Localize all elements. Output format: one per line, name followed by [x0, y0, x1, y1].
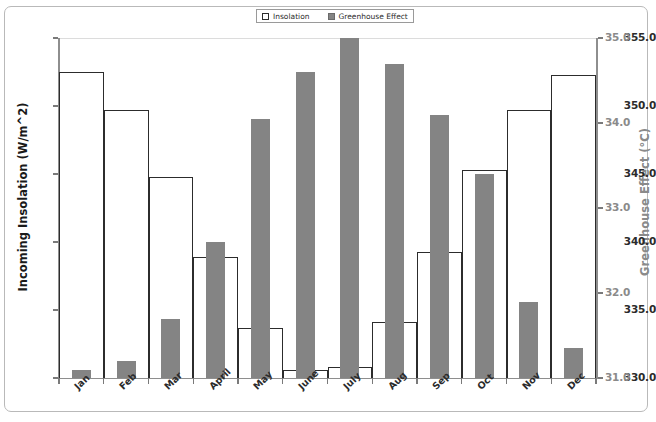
legend-label-greenhouse-effect: Greenhouse Effect [339, 12, 408, 21]
bar-greenhouse-effect[interactable] [519, 302, 538, 379]
x-axis-tick [327, 378, 328, 384]
y-axis-tick-label-right: 31.0 [605, 371, 630, 383]
x-axis-tick [103, 378, 104, 384]
y-axis-tick-label-left: 350.0 [608, 99, 656, 111]
y-axis-tick-right [598, 292, 603, 293]
y-axis-tick-label-left: 345.0 [608, 167, 656, 179]
y-axis-tick-left [53, 377, 58, 378]
bar-insolation[interactable] [59, 72, 104, 378]
y-axis-tick-left [53, 309, 58, 310]
x-axis-tick [237, 378, 238, 384]
x-axis-tick [193, 378, 194, 384]
bar-insolation[interactable] [104, 110, 149, 378]
y-axis-tick-label-right: 34.0 [605, 116, 630, 128]
y-axis-tick-left [53, 105, 58, 106]
filled-square-icon [328, 13, 335, 20]
open-square-icon [262, 13, 269, 20]
x-axis-tick [461, 378, 462, 384]
right-axis-title: Greenhouse Effect (°C) [638, 92, 652, 312]
bar-greenhouse-effect[interactable] [251, 119, 270, 378]
chart-container: Insolation Greenhouse Effect Incoming In… [0, 0, 656, 422]
x-axis-tick [416, 378, 417, 384]
x-axis-tick [506, 378, 507, 384]
left-axis-title: Incoming Insolation (W/m^2) [16, 87, 30, 307]
chart-legend: Insolation Greenhouse Effect [256, 9, 414, 23]
bar-greenhouse-effect[interactable] [475, 174, 494, 378]
x-axis-tick [282, 378, 283, 384]
x-axis-tick [372, 378, 373, 384]
x-axis-tick [551, 378, 552, 384]
bar-greenhouse-effect[interactable] [385, 64, 404, 379]
y-axis-tick-label-right: 32.0 [605, 286, 630, 298]
x-axis-tick [148, 378, 149, 384]
y-axis-tick-left [53, 173, 58, 174]
x-axis-tick [58, 378, 59, 384]
bar-greenhouse-effect[interactable] [206, 242, 225, 378]
x-axis-tick [595, 378, 596, 384]
legend-label-insolation: Insolation [273, 12, 310, 21]
top-gridline [59, 38, 596, 39]
bar-insolation[interactable] [551, 75, 596, 378]
y-axis-tick-label-left: 340.0 [608, 235, 656, 247]
y-axis-tick-right [598, 37, 603, 38]
y-axis-tick-right [598, 377, 603, 378]
y-axis-tick-right [598, 207, 603, 208]
bar-greenhouse-effect[interactable] [430, 115, 449, 379]
y-axis-tick-label-right: 35.0 [605, 31, 630, 43]
y-axis-tick-label-right: 33.0 [605, 201, 630, 213]
y-axis-tick-right [598, 122, 603, 123]
y-axis-tick-left [53, 37, 58, 38]
bar-greenhouse-effect[interactable] [340, 38, 359, 378]
y-axis-tick-left [53, 241, 58, 242]
legend-item-greenhouse-effect[interactable]: Greenhouse Effect [328, 12, 408, 21]
y-axis-tick-label-left: 335.0 [608, 303, 656, 315]
bar-greenhouse-effect[interactable] [296, 72, 315, 378]
legend-item-insolation[interactable]: Insolation [262, 12, 310, 21]
